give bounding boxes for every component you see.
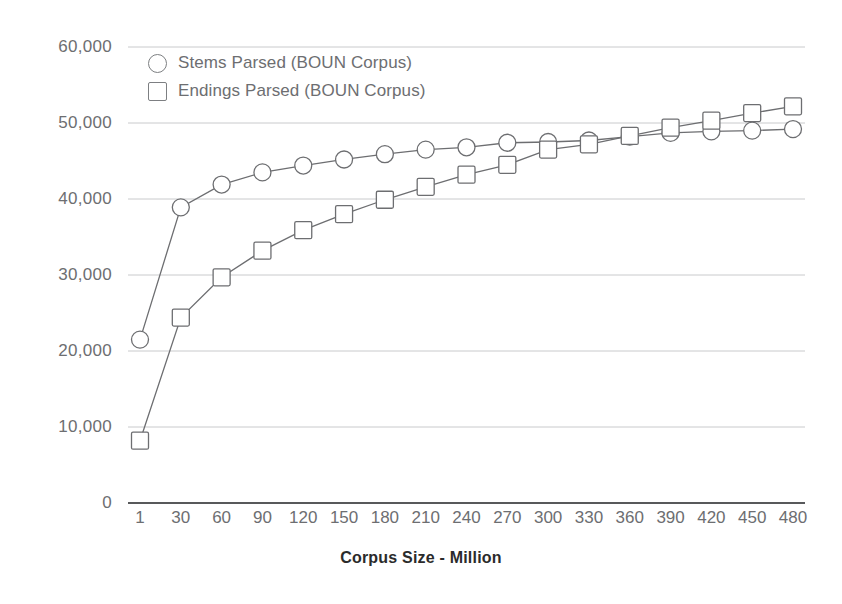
legend-item-stems: Stems Parsed (BOUN Corpus) bbox=[148, 50, 426, 76]
x-axis-tick-label: 480 bbox=[779, 508, 807, 528]
data-point-marker bbox=[458, 166, 475, 183]
data-point-marker bbox=[132, 331, 149, 348]
data-point-marker bbox=[376, 146, 393, 163]
y-axis-tick-label: 30,000 bbox=[16, 265, 112, 285]
data-point-marker bbox=[499, 156, 516, 173]
data-point-marker bbox=[336, 206, 353, 223]
data-point-marker bbox=[458, 139, 475, 156]
y-axis-tick-label: 20,000 bbox=[16, 341, 112, 361]
x-axis-title: Corpus Size - Million bbox=[0, 549, 842, 567]
line-chart: 010,00020,00030,00040,00050,00060,000 13… bbox=[0, 0, 842, 604]
x-axis-tick-label: 270 bbox=[493, 508, 521, 528]
data-point-marker bbox=[254, 164, 271, 181]
series-line-stems bbox=[140, 129, 793, 340]
x-axis-tick-label: 210 bbox=[412, 508, 440, 528]
y-axis-tick-label: 50,000 bbox=[16, 113, 112, 133]
data-point-marker bbox=[213, 176, 230, 193]
data-point-marker bbox=[417, 178, 434, 195]
data-point-marker bbox=[785, 98, 802, 115]
data-point-marker bbox=[172, 309, 189, 326]
x-axis-tick-label: 1 bbox=[135, 508, 144, 528]
data-point-marker bbox=[417, 141, 434, 158]
x-axis-tick-label: 300 bbox=[534, 508, 562, 528]
data-point-marker bbox=[662, 119, 679, 136]
x-axis-tick-label: 120 bbox=[289, 508, 317, 528]
y-axis-tick-label: 60,000 bbox=[16, 37, 112, 57]
data-point-marker bbox=[744, 105, 761, 122]
x-axis-tick-label: 450 bbox=[738, 508, 766, 528]
data-point-marker bbox=[376, 191, 393, 208]
x-axis-tick-label: 90 bbox=[253, 508, 272, 528]
x-axis-tick-label: 180 bbox=[371, 508, 399, 528]
legend-label-stems: Stems Parsed (BOUN Corpus) bbox=[178, 53, 412, 73]
data-point-marker bbox=[580, 136, 597, 153]
data-point-marker bbox=[254, 242, 271, 259]
data-point-marker bbox=[621, 127, 638, 144]
data-point-marker bbox=[744, 122, 761, 139]
legend-item-endings: Endings Parsed (BOUN Corpus) bbox=[148, 78, 426, 104]
x-axis-tick-label: 330 bbox=[575, 508, 603, 528]
y-axis-tick-labels: 010,00020,00030,00040,00050,00060,000 bbox=[0, 0, 112, 604]
data-point-marker bbox=[499, 134, 516, 151]
data-point-marker bbox=[213, 269, 230, 286]
x-axis-tick-label: 390 bbox=[656, 508, 684, 528]
x-axis-tick-label: 420 bbox=[697, 508, 725, 528]
x-axis-tick-label: 30 bbox=[171, 508, 190, 528]
chart-legend: Stems Parsed (BOUN Corpus) Endings Parse… bbox=[148, 50, 426, 106]
x-axis-tick-label: 360 bbox=[616, 508, 644, 528]
data-point-marker bbox=[172, 199, 189, 216]
x-axis-tick-label: 150 bbox=[330, 508, 358, 528]
data-point-marker bbox=[295, 157, 312, 174]
x-axis-tick-label: 60 bbox=[212, 508, 231, 528]
x-axis-tick-label: 240 bbox=[452, 508, 480, 528]
y-axis-tick-label: 10,000 bbox=[16, 417, 112, 437]
y-axis-tick-label: 40,000 bbox=[16, 189, 112, 209]
data-point-marker bbox=[785, 121, 802, 138]
square-marker-icon bbox=[148, 82, 167, 101]
data-point-marker bbox=[540, 141, 557, 158]
data-point-marker bbox=[703, 112, 720, 129]
data-point-marker bbox=[132, 432, 149, 449]
legend-label-endings: Endings Parsed (BOUN Corpus) bbox=[178, 81, 426, 101]
series-markers bbox=[132, 98, 802, 449]
data-point-marker bbox=[336, 151, 353, 168]
data-point-marker bbox=[295, 222, 312, 239]
circle-marker-icon bbox=[148, 54, 167, 73]
y-axis-tick-label: 0 bbox=[16, 493, 112, 513]
